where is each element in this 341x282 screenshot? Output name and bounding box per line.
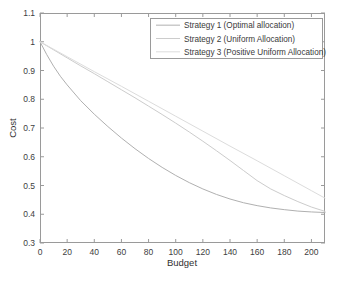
y-axis-title: Cost: [7, 118, 18, 138]
y-tick-label: 0.5: [23, 181, 35, 191]
x-tick-label: 20: [62, 247, 72, 257]
x-tick-label: 120: [196, 247, 210, 257]
x-tick-label: 140: [223, 247, 237, 257]
y-tick-label: 0.4: [23, 209, 35, 219]
x-tick-label: 0: [38, 247, 43, 257]
legend-item-label: Strategy 3 (Positive Uniform Allocation): [184, 48, 326, 57]
y-tick-label: 0.3: [23, 238, 35, 248]
x-tick-label: 160: [250, 247, 264, 257]
y-tick-label: 0.6: [23, 152, 35, 162]
y-tick-label: 0.8: [23, 94, 35, 104]
x-tick-label: 40: [90, 247, 100, 257]
x-axis-title: Budget: [167, 257, 197, 268]
x-tick-label: 180: [277, 247, 291, 257]
x-tick-label: 200: [304, 247, 318, 257]
x-tick-label: 60: [117, 247, 127, 257]
figure-canvas: 020406080100120140160180200 0.30.40.50.6…: [0, 0, 341, 282]
x-tick-label: 100: [169, 247, 183, 257]
y-tick-label: 1.1: [23, 8, 35, 18]
x-tick-label: 80: [144, 247, 154, 257]
y-tick-label: 0.9: [23, 66, 35, 76]
chart-svg: 020406080100120140160180200 0.30.40.50.6…: [0, 0, 341, 282]
y-tick-label: 0.7: [23, 123, 35, 133]
legend-item-label: Strategy 1 (Optimal allocation): [184, 21, 294, 30]
legend-item-label: Strategy 2 (Uniform Allocation): [184, 35, 295, 44]
y-tick-label: 1: [30, 37, 35, 47]
legend[interactable]: Strategy 1 (Optimal allocation)Strategy …: [151, 19, 327, 59]
